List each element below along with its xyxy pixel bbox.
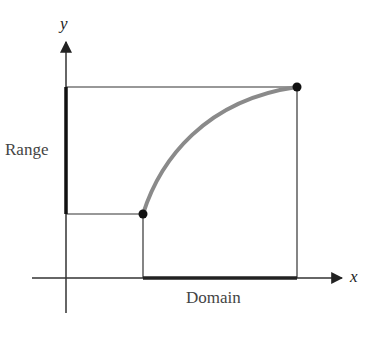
function-curve bbox=[143, 87, 297, 214]
range-label: Range bbox=[5, 140, 48, 160]
domain-range-diagram bbox=[0, 0, 365, 337]
y-axis-label: y bbox=[60, 14, 68, 34]
end-point bbox=[293, 83, 302, 92]
x-axis-label: x bbox=[350, 267, 358, 287]
start-point bbox=[139, 210, 148, 219]
domain-label: Domain bbox=[186, 288, 241, 308]
